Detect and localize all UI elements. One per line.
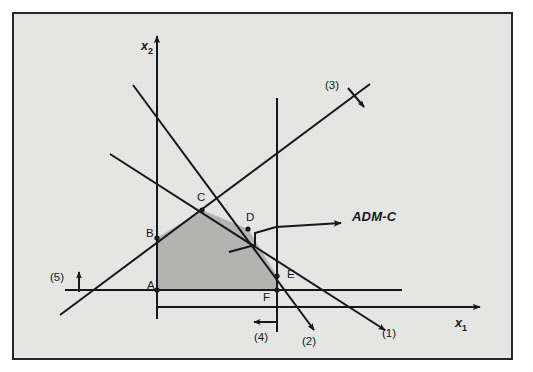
vertex-dot-D bbox=[245, 226, 250, 231]
vertex-label-D: D bbox=[246, 212, 254, 224]
constraint-label-3: (3) bbox=[325, 80, 339, 92]
figure-page: x2 x1 A B C D E F (1) (2) (3) (4) (5) AD… bbox=[0, 0, 533, 372]
objective-label-admc: ADM-C bbox=[352, 210, 396, 223]
vertex-label-E: E bbox=[287, 269, 295, 281]
vertex-dot-A bbox=[154, 287, 159, 292]
y-axis-label: x2 bbox=[141, 40, 153, 56]
constraint-line-2 bbox=[133, 85, 314, 330]
vertex-label-B: B bbox=[146, 228, 154, 240]
constraint-line-1 bbox=[110, 154, 385, 330]
constraint-label-1: (1) bbox=[382, 328, 396, 340]
constraint-label-2: (2) bbox=[302, 336, 316, 348]
constraint-label-5: (5) bbox=[50, 272, 64, 284]
vertex-label-C: C bbox=[197, 192, 205, 204]
objective-gradient-arrow-head bbox=[276, 223, 341, 227]
vertex-dot-F bbox=[274, 287, 279, 292]
figure-frame: x2 x1 A B C D E F (1) (2) (3) (4) (5) AD… bbox=[12, 12, 513, 360]
constraint-label-4: (4) bbox=[254, 332, 268, 344]
vertex-label-A: A bbox=[147, 280, 155, 292]
x-axis-label: x1 bbox=[455, 317, 467, 333]
vertex-dot-C bbox=[199, 207, 204, 212]
vertex-dot-E bbox=[274, 273, 279, 278]
plot-canvas bbox=[14, 14, 511, 358]
vertex-dot-B bbox=[154, 235, 159, 240]
vertex-label-F: F bbox=[263, 292, 270, 304]
